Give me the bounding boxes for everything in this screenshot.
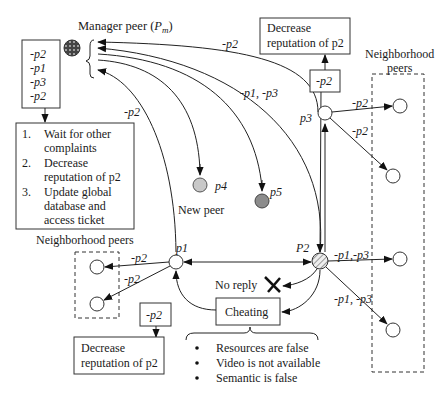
manager-peer-label: Manager peer (Pm) [78, 19, 173, 35]
svg-text:Manager peer (Pm): Manager peer (Pm) [78, 19, 173, 35]
decrease-line1: Decrease [81, 341, 125, 355]
neighbor-node[interactable] [393, 99, 407, 113]
edge-label: -p2 [222, 37, 238, 51]
svg-text:2.: 2. [22, 156, 31, 170]
neighbor-node[interactable] [90, 260, 104, 274]
peer-node-p5[interactable] [255, 194, 269, 208]
peer-node-p3[interactable] [318, 106, 332, 120]
svg-text:access ticket: access ticket [44, 213, 105, 227]
svg-text:3.: 3. [22, 185, 31, 199]
neighborhood-right-label2: peers [387, 61, 413, 75]
node-label-p1: p1 [175, 241, 188, 255]
edge-label: -p2 [124, 105, 140, 119]
edge-label: -p2 [124, 272, 140, 286]
svg-text:Wait for other: Wait for other [44, 127, 111, 141]
node-label-p5: p5 [269, 185, 282, 199]
neighbor-node[interactable] [393, 252, 407, 266]
queue-item: -p2 [30, 47, 46, 61]
cheating-reason: Resources are false [216, 341, 309, 355]
no-reply-label: No reply [215, 278, 257, 292]
new-peer-label: New peer [178, 203, 224, 217]
bullet-icon [195, 376, 199, 380]
node-label-p3: p3 [299, 111, 312, 125]
cheating-label: Cheating [225, 305, 268, 319]
bullet-icon [195, 346, 199, 350]
edge-label: -p1, -p3 [334, 292, 372, 306]
edge-label: -p2 [352, 124, 368, 138]
svg-text:database and: database and [44, 199, 106, 213]
cheating-reason: Video is not available [216, 356, 320, 370]
node-label-p4: p4 [214, 179, 227, 193]
queue-item: -p2 [30, 89, 46, 103]
p2-no-reply-edge [283, 269, 317, 286]
decrease-line2: reputation of p2 [267, 36, 344, 50]
svg-text:Decrease: Decrease [44, 156, 88, 170]
decrease-line1: Decrease [267, 21, 311, 35]
node-label-p2: P2 [295, 241, 309, 255]
cheating-to-p1-edge [176, 271, 216, 310]
peer-node-p2[interactable] [312, 253, 328, 269]
edge-label: -p2 [316, 74, 332, 88]
neighbor-node[interactable] [90, 297, 104, 311]
neighbor-node[interactable] [386, 323, 400, 337]
reputation-diagram: Manager peer (Pm) -p2 -p1 -p3 -p2 1. Wai… [0, 0, 443, 397]
svg-text:reputation of p2: reputation of p2 [44, 170, 121, 184]
edge-label: -p2 [146, 308, 162, 322]
blocked-x-icon [265, 277, 280, 292]
svg-text:complaints: complaints [44, 141, 97, 155]
cheating-reason: Semantic is false [216, 371, 297, 385]
neighbor-node[interactable] [386, 169, 400, 183]
p2-to-cheating-edge [282, 270, 320, 312]
neighborhood-left-label: Neighborhood peers [36, 233, 134, 247]
bullet-icon [195, 361, 199, 365]
edge-label: -p2 [131, 251, 147, 265]
edge-label: -p2 [352, 96, 368, 110]
queue-item: -p3 [30, 75, 46, 89]
queue-item: -p1 [30, 61, 46, 75]
svg-text:Update global: Update global [44, 185, 112, 199]
brace-icon [86, 40, 94, 78]
edge-label: -p1, -p3 [240, 86, 278, 100]
brace-icon [186, 327, 318, 340]
decrease-line2: reputation of p2 [81, 356, 158, 370]
svg-text:1.: 1. [22, 127, 31, 141]
manager-peer-node[interactable] [64, 40, 80, 56]
neighborhood-right-label: Neighborhood [365, 47, 434, 61]
edge-label: -p1,-p3 [334, 248, 369, 262]
peer-node-p1[interactable] [169, 255, 183, 269]
peer-node-p4[interactable] [193, 178, 207, 192]
